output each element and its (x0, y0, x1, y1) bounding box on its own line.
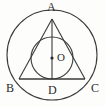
vertex-label-b: B (6, 82, 14, 94)
side-AB (19, 19, 52, 79)
center-point-dot (50, 56, 53, 59)
vertex-label-c: C (91, 82, 99, 94)
vertex-label-d: D (48, 84, 57, 96)
side-AC (52, 19, 85, 79)
vertex-label-a: A (47, 1, 56, 13)
center-label-o: O (57, 52, 65, 63)
geometry-figure: A B C D O (0, 0, 105, 107)
